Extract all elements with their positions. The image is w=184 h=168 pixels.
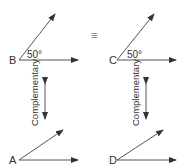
angle-d: D: [109, 130, 176, 166]
complementary-angles-diagram: B 50° ≡ C 50° Complementary Complementar…: [0, 0, 184, 168]
complementary-label-right: Complementary: [130, 59, 141, 126]
vertex-label-d: D: [109, 154, 117, 166]
angle-b: B 50°: [9, 14, 78, 66]
congruent-symbol: ≡: [91, 29, 97, 41]
complementary-relation-left: Complementary: [29, 59, 45, 126]
vertex-label-b: B: [9, 54, 16, 66]
vertex-label-a: A: [9, 154, 17, 166]
complementary-label-left: Complementary: [29, 59, 40, 126]
angle-a: A: [9, 130, 78, 166]
angle-d-diagonal-ray: [117, 130, 163, 160]
angle-measure-b: 50°: [27, 49, 42, 60]
angle-measure-c: 50°: [127, 49, 142, 60]
vertex-label-c: C: [109, 54, 117, 66]
angle-c: C 50°: [109, 14, 176, 66]
complementary-relation-right: Complementary: [130, 59, 146, 126]
angle-a-diagonal-ray: [19, 130, 63, 160]
